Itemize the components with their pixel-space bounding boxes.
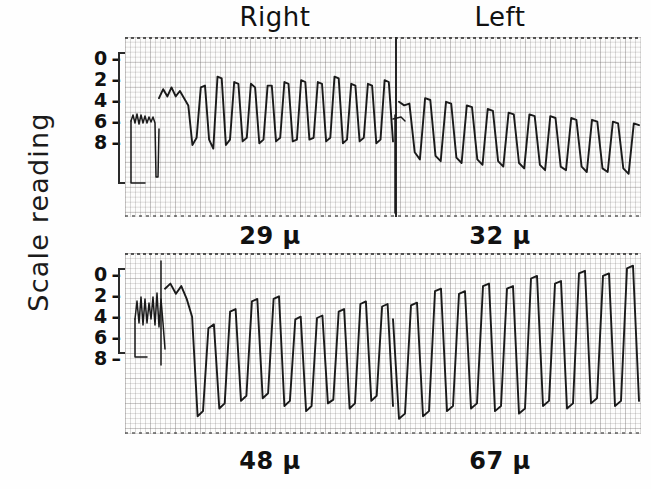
y-tick-8: 8– [94,349,121,367]
recorder-panel-top [125,37,641,217]
caption-amplitude-right-bottom: 48 μ [200,447,340,475]
y-tick-2: 2– [94,286,121,304]
y-tick-0: 0– [94,49,121,67]
figure-root: Scale reading Right Left 0– 2– 4– 6– 8– … [0,0,651,489]
y-tick-4: 4– [94,91,121,109]
caption-amplitude-left-top: 32 μ [430,222,570,250]
column-header-right: Right [205,2,345,32]
caption-amplitude-left-bottom: 67 μ [430,447,570,475]
recorder-panel-bottom [125,253,641,434]
pen-trace-panel-top [125,37,641,217]
caption-amplitude-right-top: 29 μ [200,222,340,250]
y-tick-0: 0– [94,265,121,283]
y-tick-6: 6– [94,112,121,130]
y-tick-8: 8– [94,133,121,151]
y-axis-label: Scale reading [18,82,58,342]
y-tick-2: 2– [94,70,121,88]
y-tick-4: 4– [94,307,121,325]
column-header-left: Left [430,2,570,32]
pen-trace-panel-bottom [125,253,641,434]
y-tick-6: 6– [94,328,121,346]
